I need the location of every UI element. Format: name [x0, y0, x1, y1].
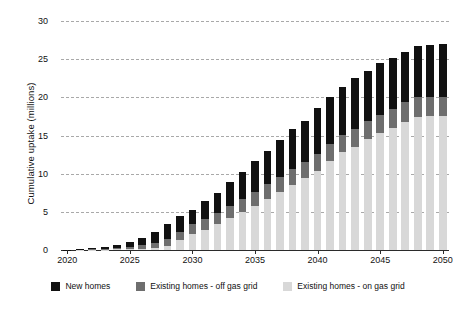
bar-segment-new-homes [426, 45, 434, 97]
y-tick-label-0: 0 [43, 245, 48, 255]
bar-segment-new-homes [439, 44, 447, 97]
bar-segment-existing-off-gas-grid [326, 144, 334, 161]
y-tick-label-30: 30 [38, 16, 48, 26]
bar-2045 [376, 63, 384, 250]
bar-segment-existing-on-gas-grid [226, 218, 234, 250]
bar-segment-existing-on-gas-grid [426, 116, 434, 250]
bar-segment-existing-off-gas-grid [289, 169, 297, 185]
bar-segment-existing-on-gas-grid [364, 139, 372, 250]
bar-2043 [351, 78, 359, 250]
bar-segment-existing-off-gas-grid [251, 192, 259, 206]
bar-segment-new-homes [314, 108, 322, 154]
bar-segment-new-homes [164, 224, 172, 239]
bar-segment-existing-off-gas-grid [401, 102, 409, 122]
bar-segment-new-homes [264, 151, 272, 185]
bar-segment-new-homes [251, 161, 259, 192]
bar-segment-existing-off-gas-grid [414, 97, 422, 117]
bar-segment-existing-on-gas-grid [351, 147, 359, 250]
y-tick-label-5: 5 [43, 207, 48, 217]
bar-2049 [426, 45, 434, 250]
bar-segment-new-homes [151, 232, 159, 243]
bar-segment-existing-on-gas-grid [201, 230, 209, 250]
bar-2027 [151, 232, 159, 250]
bar-2029 [176, 216, 184, 250]
bar-segment-new-homes [189, 210, 197, 225]
bar-segment-existing-on-gas-grid [301, 178, 309, 250]
x-tick-label-2035: 2035 [245, 255, 265, 265]
bar-segment-existing-on-gas-grid [439, 116, 447, 250]
bar-segment-existing-off-gas-grid [301, 162, 309, 178]
bar-2050 [439, 44, 447, 250]
bar-segment-new-homes [226, 182, 234, 206]
bar-segment-new-homes [351, 78, 359, 129]
y-tick-label-20: 20 [38, 92, 48, 102]
x-tick-mark-2050 [443, 250, 444, 254]
bar-2038 [289, 129, 297, 250]
x-tick-mark-2040 [318, 250, 319, 254]
bar-2046 [389, 58, 397, 250]
bar-segment-existing-off-gas-grid [314, 154, 322, 171]
y-tick-label-15: 15 [38, 131, 48, 141]
bar-segment-new-homes [301, 121, 309, 162]
bar-segment-existing-on-gas-grid [189, 234, 197, 250]
bar-2030 [189, 210, 197, 250]
bar-2026 [138, 238, 146, 250]
bar-segment-new-homes [239, 172, 247, 199]
legend-item-0[interactable]: New homes [51, 281, 110, 291]
bar-2028 [164, 224, 172, 250]
x-tick-label-2040: 2040 [308, 255, 328, 265]
bar-2034 [239, 172, 247, 250]
bar-2040 [314, 108, 322, 250]
bar-2036 [264, 151, 272, 250]
bar-segment-existing-on-gas-grid [276, 192, 284, 250]
bar-2035 [251, 161, 259, 250]
x-tick-label-2020: 2020 [57, 255, 77, 265]
x-tick-mark-2030 [192, 250, 193, 254]
legend-label: Existing homes - on gas grid [297, 281, 404, 291]
bar-segment-existing-off-gas-grid [201, 219, 209, 230]
bar-segment-existing-on-gas-grid [314, 171, 322, 250]
bar-segment-new-homes [339, 87, 347, 135]
bar-segment-new-homes [289, 129, 297, 169]
bar-segment-existing-on-gas-grid [326, 161, 334, 250]
y-tick-label-10: 10 [38, 169, 48, 179]
legend-item-1[interactable]: Existing homes - off gas grid [136, 281, 257, 291]
bar-2047 [401, 52, 409, 250]
bar-2025 [126, 242, 134, 250]
bar-segment-new-homes [401, 52, 409, 102]
bar-2033 [226, 182, 234, 250]
bar-segment-existing-off-gas-grid [226, 206, 234, 218]
bar-series-group [61, 21, 449, 250]
bar-segment-existing-off-gas-grid [376, 115, 384, 133]
bar-2037 [276, 140, 284, 250]
stacked-bar-chart: Cumulative uptake (millions) 05101520253… [0, 0, 456, 313]
bar-2031 [201, 201, 209, 250]
bar-segment-existing-off-gas-grid [239, 199, 247, 212]
bar-segment-existing-off-gas-grid [176, 232, 184, 240]
bar-segment-new-homes [214, 193, 222, 213]
x-tick-label-2045: 2045 [370, 255, 390, 265]
legend-item-2[interactable]: Existing homes - on gas grid [283, 281, 404, 291]
bar-segment-new-homes [376, 63, 384, 115]
bar-segment-new-homes [389, 58, 397, 109]
bar-segment-existing-on-gas-grid [214, 224, 222, 250]
bar-2039 [301, 121, 309, 250]
bar-segment-existing-off-gas-grid [426, 97, 434, 117]
bar-segment-existing-on-gas-grid [176, 240, 184, 250]
x-tick-mark-2045 [380, 250, 381, 254]
x-tick-mark-2025 [130, 250, 131, 254]
bar-segment-existing-off-gas-grid [189, 224, 197, 234]
legend-swatch-icon [51, 282, 60, 291]
bar-2041 [326, 97, 334, 250]
bar-2044 [364, 71, 372, 250]
bar-2032 [214, 193, 222, 250]
bar-2048 [414, 46, 422, 250]
x-tick-mark-2020 [67, 250, 68, 254]
bar-segment-existing-off-gas-grid [364, 121, 372, 139]
x-tick-label-2030: 2030 [182, 255, 202, 265]
legend-label: Existing homes - off gas grid [150, 281, 257, 291]
bar-segment-existing-on-gas-grid [376, 133, 384, 250]
bar-segment-existing-off-gas-grid [264, 184, 272, 199]
bar-segment-existing-on-gas-grid [414, 117, 422, 250]
x-tick-mark-2035 [255, 250, 256, 254]
